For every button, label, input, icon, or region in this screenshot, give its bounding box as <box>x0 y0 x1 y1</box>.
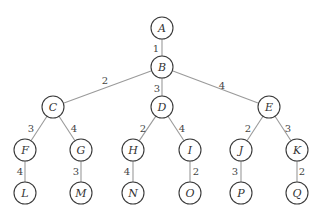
node-label: P <box>236 187 245 200</box>
node-E: E <box>258 96 280 118</box>
node-C: C <box>42 96 64 118</box>
node-label: F <box>20 144 29 157</box>
node-O: O <box>179 182 201 204</box>
node-K: K <box>286 139 308 161</box>
node-label: C <box>49 101 58 114</box>
edge-weight-J-P: 3 <box>232 166 238 177</box>
edge-weight-H-N: 4 <box>124 166 130 177</box>
node-label: E <box>264 101 273 114</box>
node-H: H <box>122 139 144 161</box>
edge-weight-C-F: 3 <box>28 123 34 134</box>
node-D: D <box>151 96 173 118</box>
edge-weight-B-E: 4 <box>219 80 225 91</box>
edge-weight-I-O: 2 <box>193 166 199 177</box>
node-Q: Q <box>286 182 308 204</box>
node-P: P <box>230 182 252 204</box>
node-N: N <box>122 182 144 204</box>
node-label: B <box>157 61 166 74</box>
node-G: G <box>70 139 92 161</box>
node-label: A <box>157 22 166 35</box>
edge-weight-E-K: 3 <box>285 123 291 134</box>
node-I: I <box>179 139 201 161</box>
node-F: F <box>14 139 36 161</box>
tree-diagram: 1234342423434232 ABCDEFGHIJKLMNOPQ <box>0 0 322 215</box>
edge-B-E <box>172 71 258 103</box>
node-label: I <box>187 144 193 157</box>
node-label: Q <box>292 187 301 200</box>
edge-weight-D-H: 2 <box>140 123 146 134</box>
node-L: L <box>14 182 36 204</box>
node-label: G <box>77 144 86 157</box>
node-J: J <box>230 139 252 161</box>
node-label: O <box>185 187 194 200</box>
edge-weight-K-Q: 2 <box>299 166 305 177</box>
edge-weight-B-D: 3 <box>154 83 160 94</box>
edge-weight-E-J: 2 <box>245 123 251 134</box>
node-label: J <box>237 144 244 157</box>
edge-weight-B-C: 2 <box>102 75 108 86</box>
edge-weight-C-G: 4 <box>71 123 77 134</box>
node-label: K <box>292 144 302 157</box>
node-M: M <box>70 182 92 204</box>
nodes-layer: ABCDEFGHIJKLMNOPQ <box>14 17 308 204</box>
node-label: M <box>74 187 87 200</box>
node-label: D <box>157 101 167 114</box>
edge-weight-A-B: 1 <box>153 43 159 54</box>
node-A: A <box>151 17 173 39</box>
edge-weight-F-L: 4 <box>17 166 23 177</box>
node-label: L <box>20 187 28 200</box>
node-label: H <box>127 144 138 157</box>
node-B: B <box>151 56 173 78</box>
edge-weight-D-I: 4 <box>179 123 185 134</box>
edge-weight-G-M: 3 <box>73 166 79 177</box>
node-label: N <box>127 187 138 200</box>
